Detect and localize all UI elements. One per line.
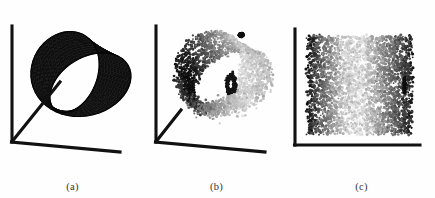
three-panel-figure: (a) (b) <box>0 0 435 198</box>
panel-c: (c) <box>288 0 435 198</box>
panel-a: (a) <box>0 0 145 198</box>
panel-a-caption: (a) <box>0 181 145 192</box>
panel-c-caption: (c) <box>288 181 435 192</box>
panel-a-mesh-surface <box>31 31 131 116</box>
axis-horizontal <box>156 142 266 152</box>
panel-c-point-cloud <box>304 33 414 136</box>
panel-b-point-cloud <box>172 30 274 125</box>
panel-c-plot <box>288 0 435 168</box>
panel-b-caption: (b) <box>145 181 288 192</box>
axis-depth <box>157 110 182 141</box>
panel-a-plot <box>0 0 145 168</box>
panel-b: (b) <box>145 0 288 198</box>
axis-horizontal <box>12 142 121 152</box>
panel-b-plot <box>145 0 288 168</box>
